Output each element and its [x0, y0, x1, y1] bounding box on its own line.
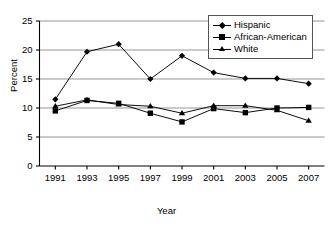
data-point	[242, 75, 248, 81]
data-point	[147, 103, 153, 108]
legend-item-african-american: African-American	[213, 31, 307, 43]
data-point	[274, 75, 280, 81]
legend-item-white: White	[213, 43, 307, 55]
data-point	[52, 96, 58, 102]
data-point	[242, 102, 248, 107]
chart-container: Percent Year 0510152025 1991199319951997…	[0, 0, 333, 225]
legend-label: Hispanic	[234, 20, 270, 30]
legend-marker-square-icon	[213, 32, 231, 42]
data-point	[306, 81, 312, 87]
legend-marker-triangle-icon	[213, 44, 231, 54]
legend-label: White	[234, 44, 258, 54]
legend-item-hispanic: Hispanic	[213, 19, 307, 31]
data-point	[179, 119, 184, 124]
data-point	[53, 108, 58, 113]
data-point	[211, 70, 217, 76]
chart-legend: Hispanic African-American White	[208, 15, 313, 59]
legend-label: African-American	[234, 32, 307, 42]
data-point	[210, 102, 216, 107]
data-point	[243, 110, 248, 115]
data-point	[148, 111, 153, 116]
data-point	[306, 105, 311, 110]
legend-marker-diamond-icon	[213, 20, 231, 30]
